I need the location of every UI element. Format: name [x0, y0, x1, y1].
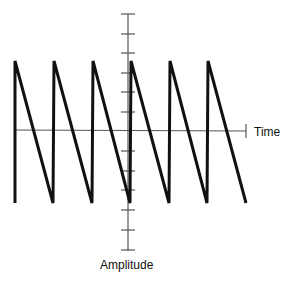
sawtooth-diagram: Time Amplitude	[0, 0, 291, 281]
time-axis-label: Time	[254, 125, 280, 139]
waveform-plot	[0, 0, 291, 281]
amplitude-axis-label: Amplitude	[100, 258, 153, 272]
sawtooth-waveform	[15, 61, 246, 203]
amplitude-axis	[121, 14, 135, 251]
